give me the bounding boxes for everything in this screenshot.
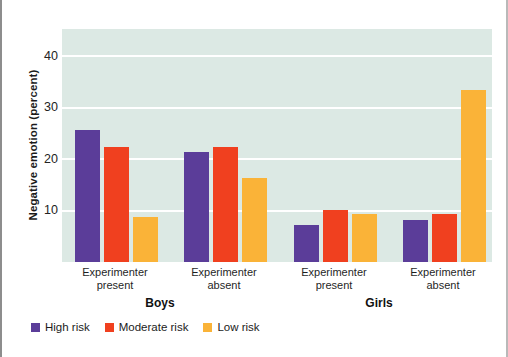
- bar-girls-absent-moderate-risk: [432, 214, 457, 262]
- legend-label-low-risk: Low risk: [217, 321, 259, 333]
- legend-item-moderate-risk: Moderate risk: [105, 321, 189, 333]
- condition-label-girls-absent: Experimenter absent: [383, 266, 503, 292]
- condition-label-line1: Experimenter: [191, 266, 256, 278]
- bar-girls-present-high-risk: [294, 225, 319, 262]
- legend-label-high-risk: High risk: [45, 321, 90, 333]
- y-axis-tick-labels: 40 30 20 10: [29, 0, 58, 357]
- bar-boys-absent-moderate-risk: [213, 147, 238, 262]
- plot-area: [62, 29, 492, 262]
- bar-girls-absent-high-risk: [403, 220, 428, 262]
- bar-boys-present-high-risk: [75, 130, 100, 262]
- gridline-30: [62, 107, 492, 109]
- legend-label-moderate-risk: Moderate risk: [119, 321, 189, 333]
- legend-swatch-moderate-risk: [105, 323, 114, 332]
- gridline-40: [62, 55, 492, 57]
- condition-label-boys-present: Experimenter present: [55, 266, 175, 292]
- group-label-girls: Girls: [279, 296, 479, 310]
- y-tick-10: 10: [32, 204, 58, 217]
- y-tick-40: 40: [32, 50, 58, 63]
- legend-swatch-low-risk: [203, 323, 212, 332]
- group-label-boys: Boys: [60, 296, 260, 310]
- legend: High risk Moderate risk Low risk: [31, 321, 260, 333]
- bar-girls-present-low-risk: [352, 214, 377, 262]
- condition-label-line2: absent: [426, 279, 459, 291]
- condition-label-boys-absent: Experimenter absent: [164, 266, 284, 292]
- bar-chart-figure: Negative emotion (percent) 40 30 20 10 E…: [0, 0, 508, 357]
- legend-item-high-risk: High risk: [31, 321, 90, 333]
- y-tick-30: 30: [32, 101, 58, 114]
- condition-label-line1: Experimenter: [301, 266, 366, 278]
- condition-label-girls-present: Experimenter present: [274, 266, 394, 292]
- condition-label-line1: Experimenter: [82, 266, 147, 278]
- bar-girls-absent-low-risk: [461, 90, 486, 262]
- condition-label-line2: absent: [207, 279, 240, 291]
- condition-label-line2: present: [97, 279, 134, 291]
- legend-item-low-risk: Low risk: [203, 321, 259, 333]
- bar-boys-absent-high-risk: [184, 152, 209, 262]
- legend-swatch-high-risk: [31, 323, 40, 332]
- bar-boys-present-moderate-risk: [104, 147, 129, 262]
- condition-label-line2: present: [316, 279, 353, 291]
- bar-girls-present-moderate-risk: [323, 210, 348, 262]
- condition-label-line1: Experimenter: [410, 266, 475, 278]
- bar-boys-absent-low-risk: [242, 178, 267, 262]
- bar-boys-present-low-risk: [133, 217, 158, 262]
- y-tick-20: 20: [32, 153, 58, 166]
